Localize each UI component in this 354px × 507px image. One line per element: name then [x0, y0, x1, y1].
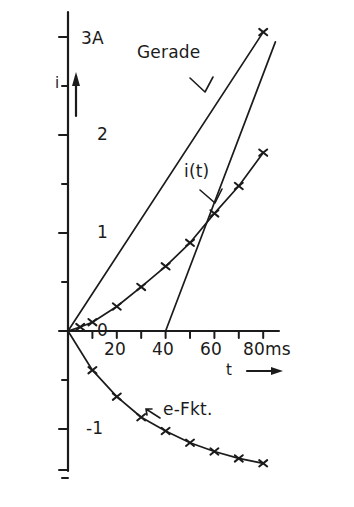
data-point-marker [137, 414, 145, 420]
x-tick-label-60: 60 [200, 341, 222, 358]
x-tick-label-80ms: 80ms [243, 341, 291, 358]
data-point-marker [76, 324, 84, 330]
series-gerade [68, 29, 267, 331]
x-tick-label-20: 20 [104, 341, 126, 358]
y-tick-label-2: 2 [97, 126, 108, 143]
x-tick-label-40: 40 [152, 341, 174, 358]
data-point-marker [113, 303, 121, 309]
leader-line-e-fkt [146, 409, 160, 418]
figure-canvas: 3A 2 1 0 -1 i 20 40 60 80ms t Gerade i(t… [0, 0, 354, 507]
series-path [166, 42, 276, 331]
data-point-marker [235, 183, 243, 189]
plot-area [0, 0, 354, 507]
data-point-marker [210, 210, 218, 216]
data-point-marker [186, 240, 194, 246]
x-axis-name: t [226, 363, 232, 378]
data-point-marker [88, 367, 96, 373]
data-point-marker [137, 284, 145, 290]
y-tick-label-0: 0 [97, 322, 108, 339]
annotation-gerade: Gerade [137, 44, 201, 61]
data-point-marker [186, 440, 194, 446]
y-tick-label-3A: 3A [81, 30, 104, 47]
data-point-marker [88, 319, 96, 325]
series-gerade-verschoben [166, 42, 276, 331]
data-point-marker [162, 428, 170, 434]
data-point-marker [162, 263, 170, 269]
data-point-marker [259, 149, 267, 155]
y-tick-label-minus1: -1 [86, 420, 103, 437]
up-arrow-icon [72, 72, 80, 86]
right-arrow-icon [271, 367, 283, 375]
leader-line-gerade [190, 77, 213, 92]
y-axis-name: i [55, 76, 59, 91]
data-point-marker [113, 393, 121, 399]
series-path [68, 32, 263, 331]
annotation-i-of-t: i(t) [184, 163, 209, 180]
data-point-marker [259, 29, 267, 35]
annotation-e-fkt: e-Fkt. [163, 401, 213, 418]
y-tick-label-1: 1 [97, 224, 108, 241]
